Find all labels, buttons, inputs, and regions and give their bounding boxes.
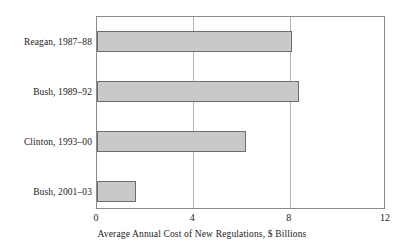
x-tick-label-4: 4 [172,212,212,224]
x-tick-label-8: 8 [269,212,309,224]
x-tick-label-0: 0 [76,212,116,224]
x-axis-title: Average Annual Cost of New Regulations, … [0,228,404,240]
plot-area [96,16,385,209]
bar-chart-figure: Reagan, 1987–88 Bush, 1989–92 Clinton, 1… [0,0,404,246]
bar-bush-1989 [97,81,299,102]
bar-clinton [97,131,246,152]
category-label-bush-2001: Bush, 2001–03 [0,187,92,198]
category-label-clinton: Clinton, 1993–00 [0,137,92,148]
bar-bush-2001 [97,181,136,202]
category-label-reagan: Reagan, 1987–88 [0,37,92,48]
bar-reagan [97,31,292,52]
x-tick-label-12: 12 [365,212,404,224]
category-label-bush-1989: Bush, 1989–92 [0,87,92,98]
